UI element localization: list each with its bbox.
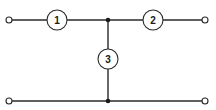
- element-1-label: 1: [54, 15, 60, 26]
- junction-bottom: [106, 99, 111, 104]
- element-1: 1: [47, 10, 67, 30]
- terminal-top-left: [6, 17, 12, 23]
- terminal-bottom-left: [6, 98, 12, 104]
- junction-top: [106, 18, 111, 23]
- element-2-label: 2: [150, 15, 156, 26]
- terminal-bottom-right: [202, 98, 208, 104]
- element-2: 2: [143, 10, 163, 30]
- element-3: 3: [98, 49, 118, 69]
- terminal-top-right: [202, 17, 208, 23]
- circuit-diagram: 1 2 3: [0, 0, 216, 110]
- element-3-label: 3: [105, 54, 111, 65]
